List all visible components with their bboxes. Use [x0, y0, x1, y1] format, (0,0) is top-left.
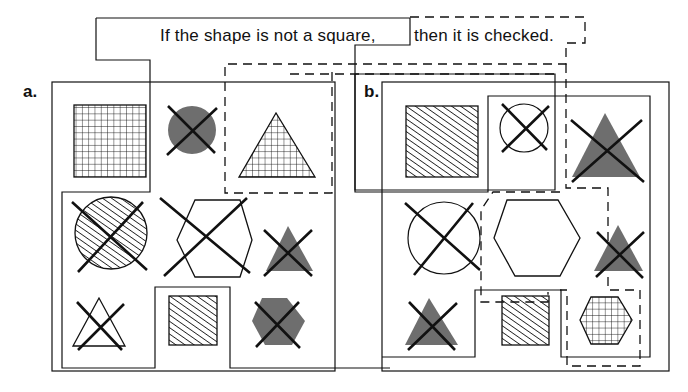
hatched-square [406, 106, 478, 177]
statement-antecedent: If the shape is not a square, [160, 26, 376, 46]
check-mark-icon [160, 198, 250, 276]
hatched-square [502, 296, 549, 345]
grid-triangle [239, 113, 315, 177]
gray-triangle [572, 113, 640, 177]
panel-a-label: a. [23, 82, 37, 102]
antecedent-region [62, 18, 555, 368]
statement-consequent: then it is checked. [414, 26, 554, 46]
grid-hexagon [580, 297, 632, 344]
gray-triangle [266, 226, 313, 271]
panel-b-shapes [405, 104, 644, 350]
hatched-square [169, 296, 217, 345]
grid-square [74, 105, 146, 177]
panel-b-label: b. [364, 82, 379, 102]
gray-triangle [594, 225, 643, 271]
check-mark-icon [502, 104, 549, 152]
hexagon [494, 200, 580, 276]
logic-diagram [0, 0, 688, 392]
panel-a-shapes [72, 105, 315, 350]
